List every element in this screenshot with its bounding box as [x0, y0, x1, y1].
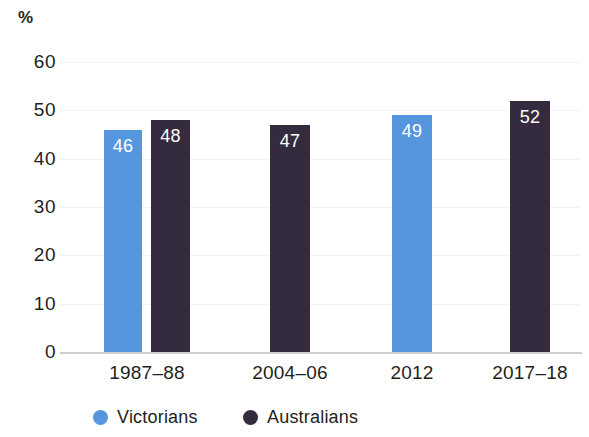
- chart-legend: VictoriansAustralians: [0, 408, 589, 437]
- bar[interactable]: 49: [392, 115, 432, 352]
- bar-value-label: 49: [392, 121, 432, 142]
- bar[interactable]: 46: [104, 130, 142, 352]
- x-axis-category-label: 2017–18: [460, 362, 589, 384]
- legend-color-swatch-icon: [93, 410, 108, 425]
- bar-chart: % 6050403020100 4648474952 1987–882004–0…: [0, 0, 589, 437]
- bar-value-label: 47: [270, 131, 310, 152]
- x-axis-baseline: [60, 352, 582, 354]
- bar[interactable]: 48: [151, 120, 190, 352]
- bar-value-label: 52: [510, 107, 550, 128]
- legend-color-swatch-icon: [243, 410, 258, 425]
- bar-value-label: 46: [104, 136, 142, 157]
- bar-value-label: 48: [151, 126, 190, 147]
- x-axis-category-label: 1987–88: [77, 362, 217, 384]
- x-axis-category-labels: 1987–882004–0620122017–18: [0, 362, 589, 396]
- x-axis-category-label: 2004–06: [220, 362, 360, 384]
- legend-item[interactable]: Australians: [243, 408, 358, 426]
- bars-layer: 4648474952: [0, 0, 589, 352]
- bar[interactable]: 47: [270, 125, 310, 352]
- legend-label: Victorians: [117, 408, 198, 426]
- legend-item[interactable]: Victorians: [93, 408, 198, 426]
- bar[interactable]: 52: [510, 101, 550, 352]
- legend-label: Australians: [267, 408, 358, 426]
